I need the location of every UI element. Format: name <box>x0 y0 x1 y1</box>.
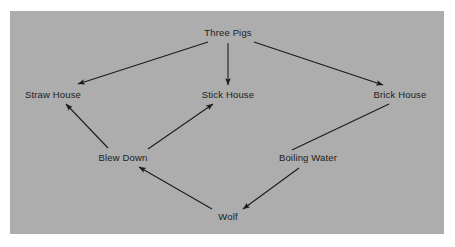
diagram-panel <box>10 11 444 234</box>
node-blew-down: Blew Down <box>99 153 148 163</box>
diagram-screenshot: Three PigsStraw HouseStick HouseBrick Ho… <box>0 0 455 247</box>
node-boiling-water: Boiling Water <box>279 153 337 163</box>
node-wolf: Wolf <box>218 212 237 222</box>
node-three-pigs: Three Pigs <box>204 28 251 38</box>
node-straw-house: Straw House <box>25 90 81 100</box>
node-stick-house: Stick House <box>202 90 254 100</box>
node-brick-house: Brick House <box>374 90 427 100</box>
